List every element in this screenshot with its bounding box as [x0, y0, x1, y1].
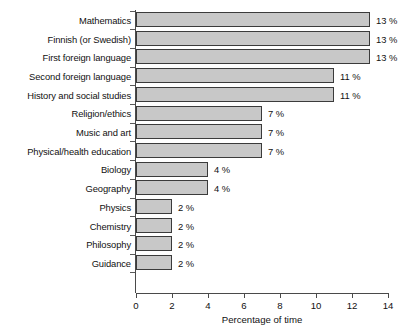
bar-row: History and social studies11 % — [0, 85, 396, 104]
x-axis-tick — [352, 293, 353, 298]
category-label: First foreign language — [0, 52, 131, 63]
bar — [136, 124, 262, 139]
x-axis-tick — [280, 293, 281, 298]
bar-value-label: 13 % — [376, 52, 397, 63]
bar-value-label: 11 % — [340, 89, 361, 100]
bar-row: Physical/health education7 % — [0, 141, 396, 160]
bar — [136, 236, 172, 251]
bar — [136, 143, 262, 158]
category-label: Chemistry — [0, 220, 131, 231]
bar-row: Finnish (or Swedish)13 % — [0, 29, 396, 48]
bar-value-label: 4 % — [214, 183, 230, 194]
bar-row: Physics2 % — [0, 198, 396, 217]
x-axis-tick-label: 12 — [337, 300, 367, 312]
category-label: Religion/ethics — [0, 108, 131, 119]
bar — [136, 49, 370, 64]
bar-row: Chemistry2 % — [0, 216, 396, 235]
bar — [136, 87, 334, 102]
x-axis-tick-label: 14 — [373, 300, 402, 312]
bar-value-label: 13 % — [376, 14, 397, 25]
bar-row: Guidance2 % — [0, 254, 396, 273]
category-label: Physical/health education — [0, 145, 131, 156]
x-axis-tick — [136, 293, 137, 298]
bar-value-label: 7 % — [268, 145, 284, 156]
bar-value-label: 11 % — [340, 70, 361, 81]
bar-value-label: 2 % — [178, 239, 194, 250]
bar — [136, 12, 370, 27]
x-axis-tick-label: 2 — [157, 300, 187, 312]
x-axis-tick-label: 4 — [193, 300, 223, 312]
bar-value-label: 2 % — [178, 201, 194, 212]
category-label: Geography — [0, 183, 131, 194]
bar-row: Mathematics13 % — [0, 11, 396, 30]
x-axis-tick — [172, 293, 173, 298]
bar — [136, 31, 370, 46]
x-axis-tick-label: 0 — [121, 300, 151, 312]
bar-row: Geography4 % — [0, 179, 396, 198]
bar — [136, 180, 208, 195]
category-label: Philosophy — [0, 239, 131, 250]
x-axis-tick — [244, 293, 245, 298]
x-axis-tick-label: 10 — [301, 300, 331, 312]
bar — [136, 218, 172, 233]
category-label: Second foreign language — [0, 70, 131, 81]
x-axis-tick — [208, 293, 209, 298]
bar — [136, 255, 172, 270]
x-axis-tick-label: 8 — [265, 300, 295, 312]
x-axis-tick — [388, 293, 389, 298]
x-axis-tick — [316, 293, 317, 298]
category-label: Mathematics — [0, 14, 131, 25]
category-label: Music and art — [0, 127, 131, 138]
bar-row: First foreign language13 % — [0, 48, 396, 67]
category-label: Physics — [0, 201, 131, 212]
y-axis-line — [135, 10, 136, 293]
bar — [136, 199, 172, 214]
bar-value-label: 7 % — [268, 108, 284, 119]
category-label: Guidance — [0, 257, 131, 268]
bar-row: Religion/ethics7 % — [0, 104, 396, 123]
bar-row: Biology4 % — [0, 160, 396, 179]
x-axis-line — [136, 293, 388, 294]
category-label: Biology — [0, 164, 131, 175]
bar-row: Second foreign language11 % — [0, 67, 396, 86]
x-axis-title: Percentage of time — [136, 314, 388, 326]
category-label: History and social studies — [0, 89, 131, 100]
bar-value-label: 2 % — [178, 257, 194, 268]
x-axis-tick-label: 6 — [229, 300, 259, 312]
bar-row: Philosophy2 % — [0, 235, 396, 254]
category-label: Finnish (or Swedish) — [0, 33, 131, 44]
bar-value-label: 4 % — [214, 164, 230, 175]
bar-value-label: 7 % — [268, 127, 284, 138]
bar-row: Music and art7 % — [0, 123, 396, 142]
bar — [136, 162, 208, 177]
bar — [136, 106, 262, 121]
bar-value-label: 13 % — [376, 33, 397, 44]
bar — [136, 68, 334, 83]
bar-value-label: 2 % — [178, 220, 194, 231]
